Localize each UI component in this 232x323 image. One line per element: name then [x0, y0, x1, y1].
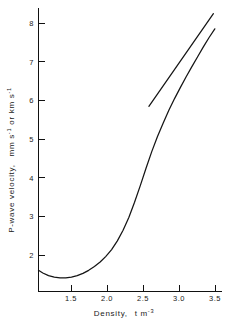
x-tick-label: 2.0 — [101, 294, 113, 303]
y-axis-title: P-wave velocity, mm s-1orkm s-1 — [6, 87, 16, 233]
y-tick-label: 5 — [29, 135, 34, 144]
y-tick-label: 3 — [29, 212, 34, 221]
y-axis-ticks — [39, 23, 46, 255]
x-axis-title-name: Density, — [94, 309, 128, 318]
y-tick-label: 2 — [29, 251, 34, 260]
y-tick-label: 7 — [29, 58, 34, 67]
y-axis-title-unit-b: km s — [7, 94, 16, 114]
series-p-wave-velocity-curve — [39, 29, 215, 278]
x-axis-title: Density, t m-3 — [94, 308, 154, 318]
x-axis-title-exponent: -3 — [148, 308, 154, 314]
x-tick-label: 3.0 — [173, 294, 185, 303]
y-axis-title-exponent-a: -1 — [6, 128, 12, 134]
y-tick-label: 8 — [29, 19, 34, 28]
chart-svg: 8 7 6 5 4 3 2 1.5 2.0 2.5 3.0 3.5 De — [0, 0, 232, 323]
x-tick-label: 1.5 — [65, 294, 77, 303]
x-axis-tick-labels: 1.5 2.0 2.5 3.0 3.5 — [65, 294, 221, 303]
y-axis-tick-labels: 8 7 6 5 4 3 2 — [29, 19, 34, 260]
y-axis-title-name: P-wave velocity, — [7, 164, 16, 232]
svg-text:Density, t m-3: Density, t m-3 — [94, 308, 154, 318]
svg-text:P-wave velocity, mm s-: P-wave velocity, mm s-1orkm s-1 — [6, 87, 16, 233]
x-axis-ticks — [71, 285, 215, 292]
x-axis-title-unit: t m — [135, 309, 148, 318]
series-reference-straight-line — [149, 14, 214, 107]
x-tick-label: 2.5 — [137, 294, 149, 303]
y-axis-title-unit-a: mm s — [7, 134, 16, 156]
x-tick-label: 3.5 — [209, 294, 221, 303]
y-tick-label: 6 — [29, 96, 34, 105]
y-axis-title-exponent-b: -1 — [6, 87, 12, 93]
chart-figure: 8 7 6 5 4 3 2 1.5 2.0 2.5 3.0 3.5 De — [0, 0, 232, 323]
y-axis-title-conjunction: or — [7, 116, 16, 125]
y-tick-label: 4 — [29, 174, 34, 183]
